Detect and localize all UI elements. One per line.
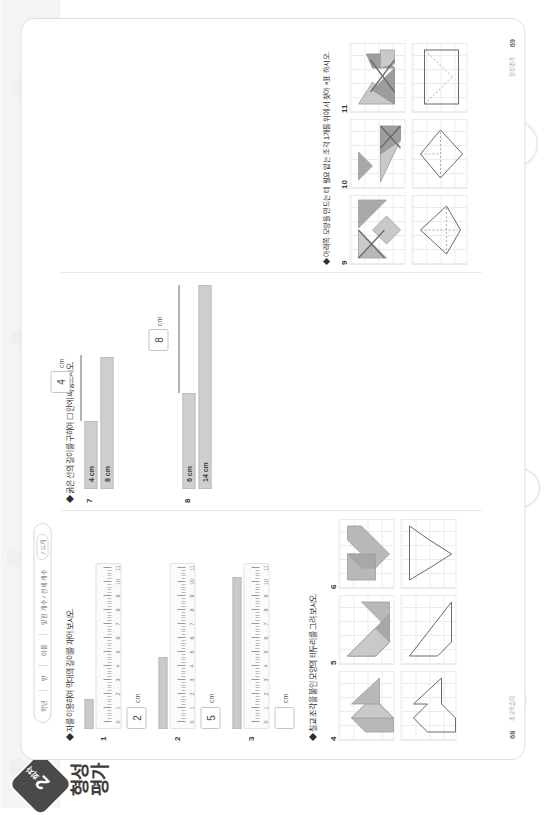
ruler-problem-2: 2 01234567891011 5 cm bbox=[158, 513, 220, 741]
problem-number: 11 bbox=[339, 43, 348, 113]
ruler-area: 01234567891011 bbox=[84, 513, 121, 729]
footer-label-right: 형성평가 bbox=[507, 57, 515, 77]
ruler-tick-label: 8 bbox=[262, 608, 268, 611]
problem-number: 6 bbox=[328, 519, 337, 589]
ruler-tick-minor bbox=[181, 701, 185, 702]
ruler-tick-minor bbox=[107, 715, 111, 716]
ruler-tick-major bbox=[251, 707, 259, 708]
ruler-tick-minor bbox=[107, 699, 111, 700]
ruler-tick-minor bbox=[255, 701, 259, 702]
ruler-tick-minor bbox=[107, 570, 111, 571]
answer-box[interactable]: 5 bbox=[200, 707, 220, 729]
answer-box[interactable]: 8 bbox=[148, 329, 168, 351]
ruler-tick-minor bbox=[181, 570, 185, 571]
ruler-tick-label: 6 bbox=[114, 636, 120, 639]
ruler-tick-label: 4 bbox=[114, 664, 120, 667]
ruler-tick-minor bbox=[107, 575, 111, 576]
ruler-tick-minor bbox=[107, 617, 111, 618]
unit-label: cm bbox=[281, 694, 288, 703]
ruler-tick-minor bbox=[255, 668, 259, 669]
ruler-tick-minor bbox=[181, 715, 185, 716]
thick-line-segment bbox=[178, 285, 181, 393]
ruler-tick-minor bbox=[181, 676, 185, 677]
ruler-tick-minor bbox=[255, 657, 259, 658]
ruler-tick-minor bbox=[255, 699, 259, 700]
ruler-tick-label: 10 bbox=[188, 579, 194, 585]
tangram-outline-problem-5: 5 bbox=[328, 595, 456, 665]
ruler-tick-label: 1 bbox=[114, 706, 120, 709]
ruler-tick-minor bbox=[255, 718, 259, 719]
ruler-tick-minor bbox=[255, 704, 259, 705]
tangram-target-grid bbox=[411, 119, 467, 189]
answer-box[interactable]: 2 bbox=[126, 707, 146, 729]
tangram-target-grid bbox=[411, 195, 467, 265]
ruler-tick-minor bbox=[107, 598, 111, 599]
ruler-tick-minor bbox=[107, 710, 111, 711]
ruler-tick-label: 4 bbox=[188, 664, 194, 667]
ruler-tick-major bbox=[251, 651, 259, 652]
ruler-tick-minor bbox=[107, 631, 111, 632]
tangram-answer-grid[interactable] bbox=[400, 519, 456, 589]
ruler-tick-label: 7 bbox=[188, 622, 194, 625]
tangram-answer-grid[interactable] bbox=[400, 671, 456, 741]
ruler-tick-minor bbox=[107, 634, 111, 635]
ruler-tick-minor bbox=[255, 682, 259, 683]
ruler-tick-minor bbox=[255, 615, 259, 616]
ruler-tick-minor bbox=[181, 645, 185, 646]
ruler-tick-label: 11 bbox=[262, 565, 268, 571]
tangram-answer-grid[interactable] bbox=[400, 595, 456, 665]
tangram-pieces-grid[interactable] bbox=[349, 119, 405, 189]
answer-row: 4 cm bbox=[50, 359, 70, 393]
tangram-shape-grid bbox=[338, 519, 394, 589]
answer-box[interactable]: 4 bbox=[50, 371, 70, 393]
ruler-tick-minor bbox=[181, 710, 185, 711]
ruler-tick-major bbox=[103, 567, 111, 568]
compare-problem-7: 7 4 cm 8 cm 4 cm bbox=[84, 275, 162, 503]
tangram-pieces-grid[interactable] bbox=[349, 195, 405, 265]
ruler-tick-minor bbox=[181, 648, 185, 649]
thick-line-segment bbox=[80, 355, 83, 421]
ruler-tick-minor bbox=[181, 601, 185, 602]
problem-number: 10 bbox=[339, 119, 348, 189]
ruler-tick-major bbox=[103, 581, 111, 582]
ruler-tick-minor bbox=[255, 696, 259, 697]
ruler-tick-label: 6 bbox=[262, 636, 268, 639]
ruler-tick-label: 2 bbox=[114, 692, 120, 695]
ruler-tick-major bbox=[251, 637, 259, 638]
ruler-tick-label: 8 bbox=[114, 608, 120, 611]
ruler-tick-major bbox=[251, 595, 259, 596]
ruler-tick-major bbox=[103, 609, 111, 610]
tangram-pieces-grid[interactable] bbox=[349, 43, 405, 113]
ruler-tick-minor bbox=[255, 690, 259, 691]
tangram-shape-grid bbox=[338, 595, 394, 665]
ruler-tick-minor bbox=[181, 584, 185, 585]
tangram-find-problem-9: 9 bbox=[339, 195, 467, 265]
ruler-tick-minor bbox=[181, 592, 185, 593]
ruler-tick-label: 2 bbox=[188, 692, 194, 695]
ruler-tick-minor bbox=[255, 710, 259, 711]
ruler-tick-minor bbox=[107, 668, 111, 669]
ruler-tick-major bbox=[177, 581, 185, 582]
ruler-tick-minor bbox=[255, 587, 259, 588]
tangram-find-problem-11: 11 bbox=[339, 43, 467, 113]
ruler-tick-minor bbox=[107, 704, 111, 705]
answer-row: cm bbox=[274, 513, 294, 729]
ruler-tick-minor bbox=[181, 699, 185, 700]
ruler-tick-major bbox=[251, 693, 259, 694]
ruler-tick-minor bbox=[255, 589, 259, 590]
ruler-tick-minor bbox=[255, 575, 259, 576]
ruler-tick-minor bbox=[107, 713, 111, 714]
ruler-tick-minor bbox=[255, 673, 259, 674]
ruler-tick-label: 1 bbox=[188, 706, 194, 709]
ruler-tick-major bbox=[103, 721, 111, 722]
ruler-problem-1: 1 01234567891011 2 cm bbox=[84, 513, 146, 741]
ruler-tick-minor bbox=[255, 634, 259, 635]
ruler-tick-label: 2 bbox=[262, 692, 268, 695]
ruler-tick-minor bbox=[181, 575, 185, 576]
ruler-tick-minor bbox=[107, 573, 111, 574]
answer-box[interactable] bbox=[274, 707, 294, 729]
tangram-find-row: 9 bbox=[339, 33, 467, 265]
ruler-tick-minor bbox=[255, 643, 259, 644]
measured-bar bbox=[84, 699, 93, 729]
